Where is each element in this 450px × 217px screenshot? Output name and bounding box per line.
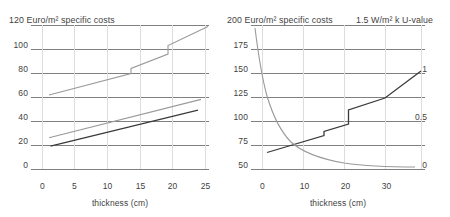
- right-y2tick-1: 1: [405, 64, 427, 74]
- right-ytick-125: 125: [225, 88, 248, 98]
- left-series-lower-linear: [51, 110, 199, 146]
- right-y2tick-0: 0: [405, 160, 427, 170]
- right-ytick-150: 150: [225, 64, 248, 74]
- left-xtick-10: 10: [99, 181, 116, 191]
- left-gridlines: [31, 26, 209, 170]
- left-series-upper-stepped: [49, 26, 208, 95]
- figure-canvas: 120 Euro/m² specific costs 100 80 60 40 …: [0, 0, 450, 217]
- right-ytick-50: 50: [225, 160, 248, 170]
- right-chart-secondary-title: 1.5 W/m² k U-value: [356, 15, 433, 25]
- left-chart-title: 120 Euro/m² specific costs: [9, 15, 115, 25]
- right-xtick-10: 10: [296, 181, 313, 191]
- right-ytick-100: 100: [225, 112, 248, 122]
- left-xtick-15: 15: [132, 181, 149, 191]
- left-xtick-5: 5: [68, 181, 81, 191]
- right-xaxis-title: thickness (cm): [251, 198, 425, 208]
- right-ytick-175: 175: [225, 40, 248, 50]
- left-xtick-20: 20: [164, 181, 181, 191]
- left-xtick-25: 25: [197, 181, 214, 191]
- right-ytick-75: 75: [225, 136, 248, 146]
- left-ytick-80: 80: [3, 64, 28, 74]
- left-ytick-0: 0: [3, 160, 28, 170]
- right-xtick-20: 20: [337, 181, 354, 191]
- left-xtick-0: 0: [36, 181, 49, 191]
- left-ytick-20: 20: [3, 136, 28, 146]
- left-series-middle-linear: [49, 99, 201, 137]
- left-ytick-100: 100: [3, 40, 28, 50]
- right-xtick-30: 30: [378, 181, 395, 191]
- left-xaxis-title: thickness (cm): [31, 198, 209, 208]
- left-ytick-40: 40: [3, 112, 28, 122]
- right-y2tick-0-5: 0.5: [399, 112, 427, 122]
- right-xtick-0: 0: [256, 181, 269, 191]
- left-ytick-60: 60: [3, 88, 28, 98]
- right-chart-panel: 200 Euro/m² specific costs 1.5 W/m² k U-…: [225, 0, 450, 217]
- right-gridlines: [251, 26, 425, 170]
- right-chart-title: 200 Euro/m² specific costs: [227, 15, 333, 25]
- left-chart-panel: 120 Euro/m² specific costs 100 80 60 40 …: [0, 0, 225, 217]
